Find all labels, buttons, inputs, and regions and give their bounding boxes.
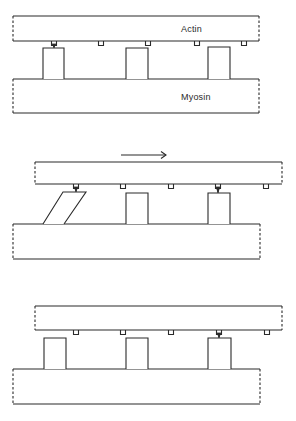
actin-binding-site [99, 41, 104, 46]
cross-bridge-link [216, 187, 220, 193]
myosin-filament-label: Myosin [181, 92, 211, 102]
panel-3-reattached [13, 306, 282, 404]
myosin-head [126, 193, 148, 224]
actin-binding-site [169, 330, 174, 335]
movement-arrow-icon [121, 152, 166, 159]
actin-binding-site [121, 330, 126, 335]
myosin-head [208, 47, 230, 79]
panel-1-attached: ActinMyosin [13, 16, 259, 113]
myosin-filament: Myosin [13, 79, 259, 113]
actin-binding-site [265, 330, 270, 335]
actin-binding-site [169, 184, 174, 189]
myosin-filament [13, 369, 260, 404]
myosin-head [126, 338, 148, 369]
cross-bridge-link [217, 333, 221, 338]
actin-binding-site [121, 184, 126, 189]
myosin-head [208, 338, 231, 369]
actin-filament-label: Actin [181, 24, 202, 34]
actin-binding-site [242, 41, 247, 46]
actin-binding-site [146, 41, 151, 46]
myosin-head [126, 48, 148, 79]
myosin-head [44, 338, 66, 369]
myosin-head [208, 193, 230, 224]
cross-bridge-link [74, 187, 78, 192]
myosin-head [43, 48, 64, 79]
actin-filament: Actin [13, 16, 259, 41]
panel-2-power-stroke [13, 152, 282, 260]
sliding-filament-diagram: ActinMyosin [0, 0, 296, 421]
actin-binding-site [74, 330, 79, 335]
myosin-head-tilted [43, 192, 86, 224]
actin-filament [35, 306, 282, 330]
myosin-filament [13, 224, 260, 259]
actin-filament [35, 162, 282, 184]
actin-binding-site [195, 41, 200, 46]
diagram-svg: ActinMyosin [0, 0, 296, 421]
actin-binding-site [264, 184, 269, 189]
